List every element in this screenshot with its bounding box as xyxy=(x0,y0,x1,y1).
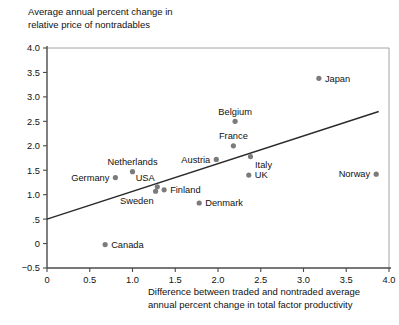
data-point-label: Belgium xyxy=(218,107,252,117)
y-axis-title: Average annual percent change in relativ… xyxy=(28,6,173,31)
data-point-marker xyxy=(246,173,251,178)
data-point-label: Denmark xyxy=(205,198,243,208)
data-point-label: UK xyxy=(255,170,269,180)
data-point-netherlands: Netherlands xyxy=(107,157,157,174)
data-point-denmark: Denmark xyxy=(197,198,244,208)
data-point-label: Finland xyxy=(170,185,201,195)
data-point-label: Netherlands xyxy=(107,157,157,167)
data-point-label: Sweden xyxy=(120,196,154,206)
y-tick-label: 0 xyxy=(35,239,40,249)
data-point-marker xyxy=(162,187,167,192)
y-tick-label: 1.0 xyxy=(27,190,40,200)
y-tick-label: 3.0 xyxy=(27,92,40,102)
y-tick-label: −0.5 xyxy=(22,263,40,273)
data-point-label: Norway xyxy=(339,169,371,179)
data-point-sweden: Sweden xyxy=(120,189,158,206)
data-point-france: France xyxy=(219,131,248,148)
x-axis-title: Difference between traded and nontraded … xyxy=(148,286,360,311)
data-point-label: Japan xyxy=(325,74,350,84)
x-tick-label: 2.0 xyxy=(212,275,225,285)
data-point-label: Canada xyxy=(111,240,144,250)
y-tick-label: 1.5 xyxy=(27,166,40,176)
x-tick-label: 2.5 xyxy=(254,275,267,285)
data-point-canada: Canada xyxy=(103,240,145,250)
data-point-marker xyxy=(248,154,253,159)
data-point-uk: UK xyxy=(246,170,268,180)
y-tick-labels: −0.50.51.01.52.02.53.03.54.0 xyxy=(22,43,40,273)
data-point-label: Italy xyxy=(255,160,272,170)
data-point-label: USA xyxy=(136,173,156,183)
data-point-marker xyxy=(316,76,321,81)
data-point-germany: Germany xyxy=(71,173,118,183)
data-point-austria: Austria xyxy=(181,155,219,165)
x-tick-label: 3.0 xyxy=(297,275,310,285)
data-point-marker xyxy=(113,175,118,180)
data-point-finland: Finland xyxy=(162,185,201,195)
y-tick-label: 2.5 xyxy=(27,117,40,127)
x-tick-label: 3.5 xyxy=(340,275,353,285)
data-point-norway: Norway xyxy=(339,169,379,179)
data-point-label: France xyxy=(219,131,248,141)
x-axis-title-line2: annual percent change in total factor pr… xyxy=(148,299,360,312)
data-point-belgium: Belgium xyxy=(218,107,252,124)
data-point-label: Austria xyxy=(181,155,211,165)
data-point-label: Germany xyxy=(71,173,110,183)
data-point-marker xyxy=(130,169,135,174)
data-point-marker xyxy=(231,143,236,148)
scatter-plot-figure: Average annual percent change in relativ… xyxy=(0,0,399,325)
data-point-italy: Italy xyxy=(248,154,273,170)
x-tick-label: 0.5 xyxy=(83,275,96,285)
y-axis-title-line2: relative price of nontradables xyxy=(28,19,173,32)
y-axis-title-line1: Average annual percent change in xyxy=(28,6,173,19)
data-point-marker xyxy=(233,119,238,124)
y-tick-label: .5 xyxy=(32,215,40,225)
y-tick-label: 3.5 xyxy=(27,68,40,78)
y-tick-label: 4.0 xyxy=(27,43,40,53)
data-point-marker xyxy=(153,189,158,194)
x-tick-label: 4.0 xyxy=(383,275,396,285)
x-tick-labels: 00.51.01.52.02.53.03.54.0 xyxy=(44,275,395,285)
data-point-japan: Japan xyxy=(316,74,350,84)
x-tick-label: 1.5 xyxy=(169,275,182,285)
x-tick-label: 1.0 xyxy=(126,275,139,285)
plot-canvas: −0.50.51.01.52.02.53.03.54.0 00.51.01.52… xyxy=(0,0,399,325)
x-tick-label: 0 xyxy=(44,275,49,285)
y-tick-label: 2.0 xyxy=(27,141,40,151)
data-point-marker xyxy=(197,200,202,205)
x-axis-title-line1: Difference between traded and nontraded … xyxy=(148,286,360,299)
data-point-marker xyxy=(214,157,219,162)
data-point-marker xyxy=(374,172,379,177)
data-point-marker xyxy=(103,242,108,247)
